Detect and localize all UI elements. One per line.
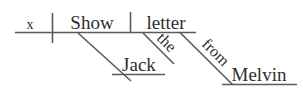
word-verb: Show bbox=[70, 12, 114, 33]
word-prep-object: Melvin bbox=[232, 64, 287, 85]
word-subject: x bbox=[27, 17, 34, 32]
diagram-canvas: x Show letter Jack the from Melvin bbox=[0, 0, 303, 98]
word-preposition: from bbox=[199, 35, 233, 69]
sentence-diagram: x Show letter Jack the from Melvin bbox=[0, 0, 303, 98]
word-indirect-object: Jack bbox=[122, 54, 156, 75]
